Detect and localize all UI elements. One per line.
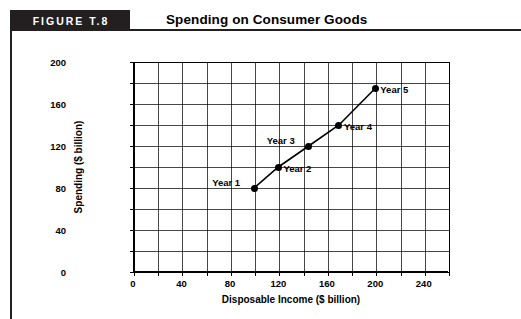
gridline-horizontal (134, 146, 449, 147)
y-axis-tick (130, 272, 134, 273)
x-tick-label: 120 (270, 278, 286, 289)
x-axis-tick (255, 272, 256, 276)
x-axis-tick (279, 272, 280, 276)
data-point-label: Year 1 (212, 177, 240, 188)
data-point (372, 85, 379, 92)
y-axis-tick (130, 83, 134, 84)
figure-root: FIGURE T.8 Spending on Consumer Goods 04… (0, 0, 521, 319)
y-axis-tick (130, 167, 134, 168)
y-tick-label: 40 (55, 225, 66, 236)
x-axis-tick (207, 272, 208, 276)
y-axis-tick (130, 125, 134, 126)
gridline-horizontal (134, 209, 449, 210)
x-axis-tick (231, 272, 232, 276)
gridline-vertical (449, 62, 450, 272)
data-point (305, 143, 312, 150)
y-tick-label: 160 (50, 99, 66, 110)
x-axis-tick (158, 272, 159, 276)
x-axis-tick (425, 272, 426, 276)
x-axis-tick (376, 272, 377, 276)
gridline-horizontal (134, 104, 449, 105)
y-axis-tick (130, 188, 134, 189)
x-axis-tick (304, 272, 305, 276)
x-tick-label: 80 (225, 278, 236, 289)
data-point-label: Year 2 (283, 163, 311, 174)
gridline-horizontal (134, 188, 449, 189)
x-axis-title: Disposable Income ($ billion) (222, 294, 360, 305)
x-tick-label: 160 (319, 278, 335, 289)
x-tick-label: 240 (416, 278, 432, 289)
y-tick-label: 0 (61, 267, 66, 278)
y-axis-tick (130, 104, 134, 105)
x-tick-label: 200 (367, 278, 383, 289)
y-axis-tick (130, 251, 134, 252)
x-axis-tick (328, 272, 329, 276)
y-tick-label: 80 (55, 183, 66, 194)
gridline-horizontal (134, 251, 449, 252)
x-axis-tick (134, 272, 135, 276)
y-tick-label: 200 (50, 57, 66, 68)
x-tick-label: 0 (130, 278, 135, 289)
gridline-horizontal (134, 62, 449, 63)
data-point (335, 122, 342, 129)
y-axis-tick (130, 146, 134, 147)
data-point-label: Year 3 (267, 135, 295, 146)
line-chart: 0408012016020024004080120160200Year 1Yea… (0, 0, 521, 319)
y-axis-tick (130, 209, 134, 210)
y-tick-label: 120 (50, 141, 66, 152)
data-point (251, 185, 258, 192)
data-point-label: Year 5 (380, 84, 408, 95)
y-axis-tick (130, 230, 134, 231)
x-axis-tick (182, 272, 183, 276)
gridline-horizontal (134, 272, 449, 273)
gridline-horizontal (134, 230, 449, 231)
data-point (275, 164, 282, 171)
x-tick-label: 40 (176, 278, 187, 289)
gridline-horizontal (134, 125, 449, 126)
data-point-label: Year 4 (344, 121, 372, 132)
x-axis-tick (401, 272, 402, 276)
y-axis-title: Spending ($ billion) (73, 121, 84, 214)
y-axis-tick (130, 62, 134, 63)
x-axis-tick (352, 272, 353, 276)
x-axis-tick (449, 272, 450, 276)
